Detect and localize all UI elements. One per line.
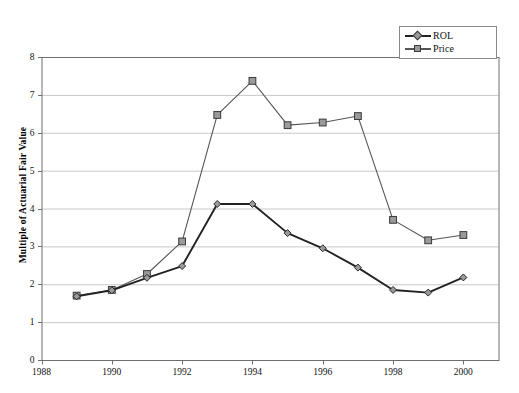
- x-tick-label-1992: 1992: [157, 367, 207, 377]
- y-tick-label-0: 0: [13, 355, 35, 365]
- data-point-price-1992[interactable]: [179, 238, 186, 245]
- y-tick-label-6: 6: [13, 128, 35, 138]
- data-point-price-1995[interactable]: [284, 122, 291, 129]
- x-tick-label-1998: 1998: [368, 367, 418, 377]
- y-tick-label-3: 3: [13, 241, 35, 251]
- y-tick-label-8: 8: [13, 52, 35, 62]
- y-axis-tickmarks: [38, 58, 42, 361]
- x-tick-label-1990: 1990: [87, 367, 137, 377]
- data-point-rol-1996[interactable]: [319, 245, 326, 252]
- data-point-price-1998[interactable]: [390, 216, 397, 223]
- y-tick-label-7: 7: [13, 90, 35, 100]
- data-point-price-1993[interactable]: [214, 112, 221, 119]
- y-tick-label-4: 4: [13, 204, 35, 214]
- chart-legend: ROL Price: [399, 26, 497, 59]
- data-point-price-1999[interactable]: [425, 237, 432, 244]
- series-line-rol: [77, 204, 464, 296]
- diamond-marker-icon: [403, 29, 433, 42]
- y-tick-label-1: 1: [13, 317, 35, 327]
- square-marker-icon: [403, 42, 433, 55]
- y-tick-label-2: 2: [13, 279, 35, 289]
- series-line-price: [77, 81, 464, 296]
- chart-container: Multiple of Actuarial Fair Value 0123456…: [0, 0, 519, 393]
- data-point-price-2000[interactable]: [460, 232, 467, 239]
- legend-entry-price[interactable]: Price: [403, 42, 492, 55]
- x-tick-label-2000: 2000: [438, 367, 488, 377]
- legend-entry-rol[interactable]: ROL: [403, 29, 492, 42]
- data-point-price-1997[interactable]: [354, 113, 361, 120]
- data-point-price-1994[interactable]: [249, 77, 256, 84]
- legend-label-rol: ROL: [433, 30, 453, 42]
- x-axis-tickmarks: [43, 361, 464, 365]
- legend-label-price: Price: [433, 43, 454, 55]
- data-series-layer: [73, 77, 467, 299]
- data-point-price-1996[interactable]: [319, 119, 326, 126]
- y-tick-label-5: 5: [13, 166, 35, 176]
- y-axis-title: Multiple of Actuarial Fair Value: [18, 95, 28, 295]
- x-tick-label-1994: 1994: [227, 367, 277, 377]
- data-point-rol-1999[interactable]: [425, 289, 432, 296]
- x-tick-label-1988: 1988: [17, 367, 67, 377]
- data-point-rol-2000[interactable]: [460, 274, 467, 281]
- x-tick-label-1996: 1996: [298, 367, 348, 377]
